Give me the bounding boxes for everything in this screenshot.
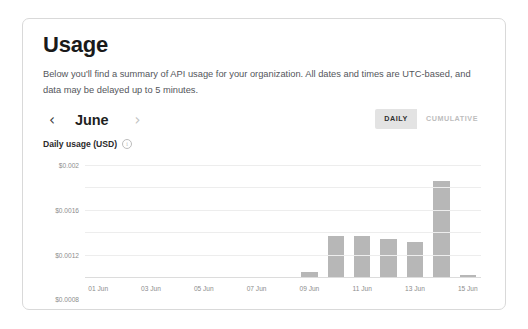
chart-controls: ‹ June › DAILY CUMULATIVE <box>43 108 487 132</box>
chart-bar[interactable] <box>433 181 449 277</box>
chevron-left-icon[interactable]: ‹ <box>43 109 61 131</box>
chart-bars <box>85 165 481 277</box>
view-mode-toggle: DAILY CUMULATIVE <box>375 109 487 129</box>
page-title: Usage <box>43 32 108 58</box>
chart-y-tick-label: $0.0016 <box>55 206 79 213</box>
chart-x-tick-label: 11 Jun <box>353 285 372 292</box>
chart-plot-area: $0.002$0.0016$0.0012$0.0008$0.0004$0.00 <box>85 165 481 277</box>
chart-gridline: $0.00 <box>85 277 481 278</box>
chart-x-tick-label: 09 Jun <box>299 285 319 292</box>
chart-x-tick-label: 13 Jun <box>405 285 425 292</box>
chart-gridline: $0.0008 <box>85 232 481 233</box>
chart-bar[interactable] <box>328 236 344 277</box>
chevron-right-icon[interactable]: › <box>128 109 146 131</box>
tab-cumulative[interactable]: CUMULATIVE <box>417 109 487 129</box>
chart-bar[interactable] <box>380 239 396 277</box>
info-icon[interactable]: i <box>122 139 132 149</box>
chart-bar[interactable] <box>407 242 423 277</box>
chart-x-tick-label: 15 Jun <box>458 285 478 292</box>
chart-header: Daily usage (USD) i <box>43 139 132 149</box>
chart-x-tick-label: 01 Jun <box>88 285 108 292</box>
current-month-label: June <box>75 112 108 128</box>
chart-bar[interactable] <box>354 236 370 277</box>
daily-usage-chart: $0.002$0.0016$0.0012$0.0008$0.0004$0.00 … <box>43 159 489 304</box>
chart-y-tick-label: $0.0012 <box>55 251 79 258</box>
chart-gridline: $0.002 <box>85 165 481 166</box>
chart-x-axis: 01 Jun03 Jun05 Jun07 Jun09 Jun11 Jun13 J… <box>85 285 481 299</box>
month-navigator: ‹ June › <box>43 108 146 132</box>
chart-gridline: $0.0012 <box>85 210 481 211</box>
chart-y-tick-label: $0.0008 <box>55 296 79 303</box>
chart-gridline: $0.0004 <box>85 255 481 256</box>
chart-gridline: $0.0016 <box>85 187 481 188</box>
page-description: Below you'll find a summary of API usage… <box>43 66 487 98</box>
chart-y-tick-label: $0.002 <box>59 162 79 169</box>
tab-daily[interactable]: DAILY <box>375 109 417 129</box>
chart-x-tick-label: 03 Jun <box>141 285 161 292</box>
chart-x-tick-label: 05 Jun <box>194 285 214 292</box>
chart-x-tick-label: 07 Jun <box>247 285 267 292</box>
usage-card: Usage Below you'll find a summary of API… <box>22 18 506 310</box>
chart-title: Daily usage (USD) <box>43 139 117 149</box>
